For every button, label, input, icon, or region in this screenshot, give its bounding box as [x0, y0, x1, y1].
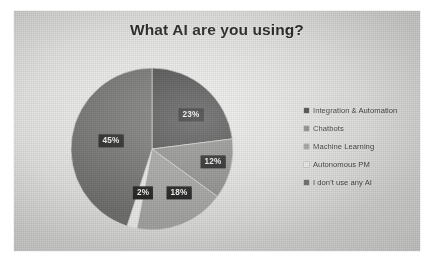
legend-swatch-icon — [304, 180, 309, 185]
chart-legend: Integration & AutomationChatbotsMachine … — [304, 103, 420, 193]
legend-item-label: Chatbots — [313, 124, 344, 133]
legend-item[interactable]: I don't use any AI — [304, 175, 420, 190]
legend-swatch-icon — [304, 144, 309, 149]
legend-item-label: Autonomous PM — [313, 160, 370, 169]
pie-chart — [70, 67, 234, 231]
chart-title: What AI are you using? — [14, 21, 420, 39]
legend-swatch-icon — [304, 126, 309, 131]
legend-item-label: Machine Learning — [313, 142, 374, 151]
legend-item-label: Integration & Automation — [313, 106, 397, 115]
pie-slice-value-label: 18% — [167, 186, 192, 199]
slide-canvas: What AI are you using? Integration & Aut… — [14, 11, 420, 251]
pie-slice-value-label: 45% — [99, 134, 124, 147]
legend-item-label: I don't use any AI — [313, 178, 372, 187]
legend-item[interactable]: Integration & Automation — [304, 103, 420, 118]
pie-chart-svg — [70, 67, 234, 231]
pie-slice-group — [71, 68, 233, 230]
pie-slice-value-label: 12% — [201, 155, 226, 168]
legend-item[interactable]: Machine Learning — [304, 139, 420, 154]
pie-slice-value-label: 2% — [133, 186, 153, 199]
legend-item[interactable]: Autonomous PM — [304, 157, 420, 172]
pie-slice-value-label: 23% — [179, 108, 204, 121]
legend-item[interactable]: Chatbots — [304, 121, 420, 136]
legend-swatch-icon — [304, 108, 309, 113]
legend-swatch-icon — [304, 162, 309, 167]
screenshot-root: What AI are you using? Integration & Aut… — [0, 0, 434, 270]
